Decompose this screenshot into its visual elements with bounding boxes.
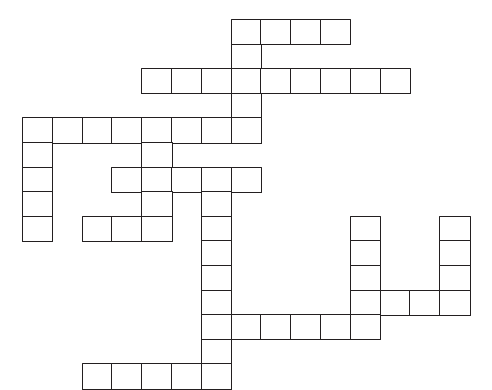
crossword-cell[interactable] [290,68,321,94]
crossword-cell[interactable] [111,363,142,389]
crossword-cell[interactable] [439,240,470,266]
crossword-cell[interactable] [290,314,321,340]
crossword-cell[interactable] [260,314,291,340]
crossword-cell[interactable] [82,216,113,242]
crossword-cell[interactable] [350,216,381,242]
crossword-cell[interactable] [201,290,232,316]
crossword-cell[interactable] [111,167,142,193]
crossword-cell[interactable] [171,363,202,389]
crossword-cell[interactable] [290,19,321,45]
crossword-cell[interactable] [52,117,83,143]
crossword-cell[interactable] [350,68,381,94]
crossword-cell[interactable] [201,216,232,242]
crossword-cell[interactable] [141,191,172,217]
crossword-cell[interactable] [141,167,172,193]
crossword-cell[interactable] [231,117,262,143]
crossword-cell[interactable] [22,142,53,168]
crossword-cell[interactable] [82,117,113,143]
crossword-cell[interactable] [171,68,202,94]
crossword-cell[interactable] [141,216,172,242]
crossword-cell[interactable] [380,68,411,94]
crossword-cell[interactable] [350,314,381,340]
crossword-cell[interactable] [82,363,113,389]
crossword-cell[interactable] [409,290,440,316]
crossword-cell[interactable] [201,363,232,389]
crossword-cell[interactable] [141,363,172,389]
crossword-cell[interactable] [231,19,262,45]
crossword-cell[interactable] [201,167,232,193]
crossword-cell[interactable] [231,167,262,193]
crossword-cell[interactable] [22,216,53,242]
crossword-cell[interactable] [350,290,381,316]
crossword-cell[interactable] [439,290,470,316]
crossword-cell[interactable] [201,265,232,291]
crossword-cell[interactable] [320,314,351,340]
crossword-cell[interactable] [171,117,202,143]
crossword-cell[interactable] [201,68,232,94]
crossword-cell[interactable] [439,265,470,291]
crossword-cell[interactable] [201,314,232,340]
crossword-cell[interactable] [231,68,262,94]
crossword-cell[interactable] [111,117,142,143]
crossword-cell[interactable] [201,191,232,217]
crossword-cell[interactable] [201,339,232,365]
crossword-cell[interactable] [231,314,262,340]
crossword-cell[interactable] [22,117,53,143]
crossword-cell[interactable] [141,117,172,143]
crossword-cell[interactable] [141,142,172,168]
crossword-cell[interactable] [260,68,291,94]
crossword-cell[interactable] [141,68,172,94]
crossword-cell[interactable] [201,117,232,143]
crossword-cell[interactable] [231,44,262,70]
crossword-cell[interactable] [111,216,142,242]
crossword-cell[interactable] [320,19,351,45]
crossword-cell[interactable] [320,68,351,94]
crossword-cell[interactable] [231,93,262,119]
crossword-cell[interactable] [22,191,53,217]
crossword-cell[interactable] [171,167,202,193]
crossword-cell[interactable] [350,240,381,266]
crossword-cell[interactable] [201,240,232,266]
crossword-cell[interactable] [380,290,411,316]
crossword-cell[interactable] [439,216,470,242]
crossword-cell[interactable] [260,19,291,45]
crossword-cell[interactable] [22,167,53,193]
crossword-cell[interactable] [350,265,381,291]
